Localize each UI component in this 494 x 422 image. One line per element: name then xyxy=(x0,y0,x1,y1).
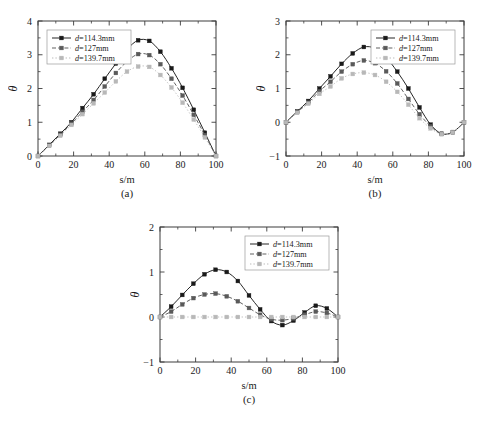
data-point-marker xyxy=(147,65,151,69)
data-point-marker xyxy=(325,311,329,315)
data-point-marker xyxy=(351,62,355,66)
data-point-marker xyxy=(418,112,422,116)
data-point-marker xyxy=(236,299,240,303)
legend-marker-d127 xyxy=(384,46,388,50)
data-point-marker xyxy=(170,66,174,70)
data-point-marker xyxy=(203,315,207,319)
legend-label-d114: d=114.3mm xyxy=(273,240,313,249)
data-point-marker xyxy=(225,294,229,298)
yaxis-label-c: θ xyxy=(130,291,142,297)
data-point-marker xyxy=(406,87,410,91)
xtick-label: 80 xyxy=(297,365,307,376)
data-point-marker xyxy=(325,315,329,319)
data-point-marker xyxy=(329,80,333,84)
xaxis-label-a: s/m xyxy=(119,174,134,185)
legend-c: d=114.3mmd=127mmd=139.7mm xyxy=(245,236,329,270)
series-line xyxy=(38,53,216,156)
legend-label-d127: d=127mm xyxy=(399,44,433,53)
data-point-marker xyxy=(214,292,218,296)
data-point-marker xyxy=(58,134,62,138)
legend-marker-d127 xyxy=(258,252,262,256)
data-point-marker xyxy=(203,272,207,276)
data-point-marker xyxy=(214,268,218,272)
data-point-marker xyxy=(225,315,229,319)
data-point-marker xyxy=(236,279,240,283)
data-point-marker xyxy=(192,108,196,112)
ytick-label: 3 xyxy=(275,16,280,27)
series-line xyxy=(286,60,464,134)
figure-root: 02040608010001234s/mθd=114.3mmd=127mmd=1… xyxy=(0,0,494,422)
xtick-label: 0 xyxy=(284,159,289,170)
data-point-marker xyxy=(180,303,184,307)
data-point-marker xyxy=(280,323,284,327)
data-point-marker xyxy=(292,315,296,319)
data-point-marker xyxy=(429,126,433,130)
data-point-marker xyxy=(395,70,399,74)
xaxis-label-b: s/m xyxy=(367,174,382,185)
data-point-marker xyxy=(92,101,96,105)
data-point-marker xyxy=(180,315,184,319)
data-point-marker xyxy=(169,315,173,319)
data-point-marker xyxy=(258,315,262,319)
legend-marker-d139 xyxy=(258,262,262,266)
data-point-marker xyxy=(36,154,40,158)
data-point-marker xyxy=(440,132,444,136)
legend-label-d114: d=114.3mm xyxy=(399,34,439,43)
data-point-marker xyxy=(336,315,340,319)
subplot-c: 020406080100−1012s/mθd=114.3mmd=127mmd=1… xyxy=(130,214,352,392)
ytick-label: 0 xyxy=(149,312,154,323)
legend-label-d139: d=139.7mm xyxy=(273,260,314,269)
data-point-marker xyxy=(147,53,151,57)
data-point-marker xyxy=(92,92,96,96)
data-point-marker xyxy=(395,82,399,86)
ytick-label: 2 xyxy=(275,49,280,60)
data-point-marker xyxy=(158,62,162,66)
data-point-marker xyxy=(69,123,73,127)
legend-marker-d127 xyxy=(60,46,64,50)
ytick-label: 1 xyxy=(27,117,32,128)
data-point-marker xyxy=(191,296,195,300)
xtick-label: 0 xyxy=(36,159,41,170)
data-point-marker xyxy=(81,106,85,110)
xtick-label: 40 xyxy=(226,365,236,376)
data-point-marker xyxy=(114,71,118,75)
data-point-marker xyxy=(258,307,262,311)
data-point-marker xyxy=(181,86,185,90)
xtick-label: 40 xyxy=(352,159,362,170)
data-point-marker xyxy=(351,72,355,76)
data-point-marker xyxy=(384,69,388,73)
data-point-marker xyxy=(406,103,410,107)
data-point-marker xyxy=(362,45,366,49)
xtick-label: 100 xyxy=(209,159,224,170)
data-point-marker xyxy=(47,144,51,148)
data-point-marker xyxy=(340,62,344,66)
data-point-marker xyxy=(418,106,422,110)
legend-label-d127: d=127mm xyxy=(75,44,109,53)
legend-marker-d139 xyxy=(60,56,64,60)
data-point-marker xyxy=(247,315,251,319)
data-point-marker xyxy=(203,293,207,297)
data-point-marker xyxy=(303,315,307,319)
data-point-marker xyxy=(191,315,195,319)
xtick-label: 80 xyxy=(175,159,185,170)
legend-marker-d114 xyxy=(258,242,262,246)
legend-marker-d139 xyxy=(384,56,388,60)
yaxis-label-b: θ xyxy=(256,85,268,91)
data-point-marker xyxy=(158,315,162,319)
data-point-marker xyxy=(340,70,344,74)
legend-label-d114: d=114.3mm xyxy=(75,34,115,43)
ytick-label: −1 xyxy=(143,357,154,368)
data-point-marker xyxy=(418,116,422,120)
data-point-marker xyxy=(225,270,229,274)
data-point-marker xyxy=(136,38,140,42)
data-point-marker xyxy=(314,310,318,314)
series-d139-b xyxy=(284,71,466,136)
legend-marker-d114 xyxy=(384,36,388,40)
series-d139-c xyxy=(158,315,340,319)
data-point-marker xyxy=(395,90,399,94)
data-point-marker xyxy=(180,293,184,297)
legend-label-d139: d=139.7mm xyxy=(399,54,440,63)
data-point-marker xyxy=(384,80,388,84)
series-line xyxy=(38,66,216,156)
data-point-marker xyxy=(325,307,329,311)
